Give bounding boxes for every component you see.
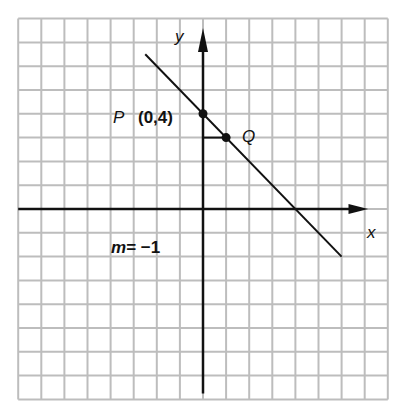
point-p [199, 109, 208, 118]
point-q-label: Q [242, 127, 255, 146]
marks [145, 54, 341, 256]
line-graph [145, 54, 341, 256]
y-axis-label: y [174, 27, 185, 46]
y-axis-arrow-icon [198, 28, 208, 52]
coordinate-plane: y x P (0,4) Q m= −1 [0, 0, 401, 411]
x-axis-label: x [366, 223, 376, 242]
slope-value: = −1 [126, 238, 160, 257]
axes [18, 28, 368, 393]
slope-m: m [111, 238, 126, 257]
point-q [222, 133, 231, 142]
point-p-coord: (0,4) [138, 108, 173, 127]
slope-label: m= −1 [111, 238, 160, 257]
point-p-label: P [113, 108, 125, 127]
